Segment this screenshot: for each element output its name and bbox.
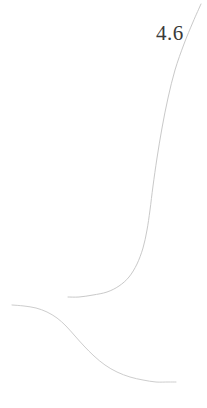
series-lower-curve <box>12 305 176 382</box>
series-upper-curve <box>68 4 201 297</box>
upper-curve-path <box>68 4 201 297</box>
chart-curves <box>0 0 207 408</box>
value-label-4-6: 4.6 <box>156 21 184 45</box>
lower-curve-path <box>12 305 176 382</box>
chart-plot-area: 4.6 <box>0 0 207 408</box>
